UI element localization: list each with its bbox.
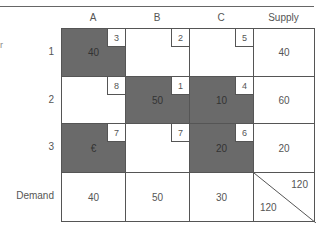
top-rule bbox=[0, 6, 314, 7]
cell-2-b: 50 1 bbox=[125, 76, 190, 124]
column-header-c: C bbox=[189, 12, 253, 23]
cost-box: 4 bbox=[235, 77, 253, 95]
allocation: 50 bbox=[152, 95, 163, 106]
supply-2: 60 bbox=[253, 76, 315, 124]
cell-1-a: 40 3 bbox=[61, 28, 126, 77]
supply-1: 40 bbox=[253, 28, 315, 77]
row-header-3: 3 bbox=[0, 141, 54, 152]
column-header-supply: Supply bbox=[253, 12, 314, 23]
allocation: € bbox=[91, 143, 97, 154]
row-header-demand: Demand bbox=[0, 190, 54, 201]
totals-cell: 120 120 bbox=[253, 172, 315, 222]
cell-3-c: 20 6 bbox=[189, 123, 254, 173]
demand-c: 30 bbox=[189, 172, 254, 222]
cell-1-b: 2 bbox=[125, 28, 190, 77]
cost-box: 7 bbox=[107, 124, 125, 142]
column-header-a: A bbox=[61, 12, 125, 23]
supply-3: 20 bbox=[253, 123, 315, 173]
demand-b: 50 bbox=[125, 172, 190, 222]
cell-3-b: 7 bbox=[125, 123, 190, 173]
row-header-2: 2 bbox=[0, 94, 54, 105]
cost-box: 2 bbox=[171, 29, 189, 47]
allocation: 40 bbox=[88, 47, 99, 58]
row-header-1: 1 bbox=[0, 46, 54, 57]
cell-1-c: 5 bbox=[189, 28, 254, 77]
demand-a: 40 bbox=[61, 172, 126, 222]
total-supply: 120 bbox=[291, 179, 308, 190]
cost-box: 6 bbox=[235, 124, 253, 142]
allocation: 20 bbox=[216, 143, 227, 154]
cost-box: 8 bbox=[107, 77, 125, 95]
cost-box: 5 bbox=[235, 29, 253, 47]
cell-3-a: € 7 bbox=[61, 123, 126, 173]
total-demand: 120 bbox=[260, 202, 277, 213]
cost-box: 3 bbox=[107, 29, 125, 47]
cell-2-c: 10 4 bbox=[189, 76, 254, 124]
cost-box: 1 bbox=[171, 77, 189, 95]
column-header-b: B bbox=[125, 12, 189, 23]
allocation: 10 bbox=[216, 95, 227, 106]
cost-box: 7 bbox=[171, 124, 189, 142]
cell-2-a: 8 bbox=[61, 76, 126, 124]
